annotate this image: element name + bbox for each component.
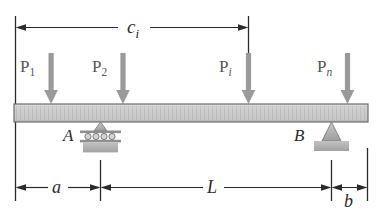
load-p1-arrow-head — [44, 90, 58, 104]
load-pi: Pi — [219, 53, 255, 104]
support-b-foundation-block — [314, 141, 349, 151]
support-a-triangle — [94, 122, 107, 131]
dimension-a-arrow-right — [90, 184, 101, 191]
support-a-roller — [109, 133, 115, 139]
load-p2: P2 — [92, 53, 130, 104]
support-a-top-plate — [80, 131, 121, 134]
support-b-triangle — [322, 122, 341, 141]
dimension-ci-arrow-left — [16, 24, 27, 31]
beam — [14, 104, 368, 122]
dimension-b: b — [332, 184, 368, 211]
dimension-b-arrow-left — [332, 184, 343, 191]
dimension-l-label: L — [206, 177, 217, 197]
support-a-rollers — [85, 133, 115, 139]
load-p2-label: P2 — [92, 57, 107, 78]
load-pi-arrow-shaft — [246, 53, 251, 94]
dimension-a-label: a — [52, 177, 61, 197]
load-pn-arrow-head — [341, 90, 355, 104]
dimension-l-arrow-left — [101, 184, 112, 191]
load-pn-arrow-shaft — [345, 53, 350, 94]
load-p1-arrow-shaft — [49, 53, 54, 94]
load-pi-label: Pi — [219, 57, 232, 78]
dimension-l: L — [101, 177, 332, 197]
diagram-canvas: ci P1 P2 Pi — [0, 0, 379, 216]
support-a-roller — [101, 133, 107, 139]
dimension-a: a — [16, 177, 101, 197]
load-p2-arrow-shaft — [120, 53, 125, 94]
support-a-label: A — [62, 126, 74, 145]
support-a-foundation-block — [83, 142, 118, 152]
dimension-b-arrow-right — [357, 184, 368, 191]
beam-hatch-overlay — [15, 106, 367, 120]
load-pn-label: Pn — [317, 57, 332, 78]
load-p2-arrow-head — [116, 90, 130, 104]
support-a-roller — [85, 133, 91, 139]
dimension-ci: ci — [16, 16, 249, 41]
load-p1: P1 — [20, 53, 58, 104]
dimension-l-arrow-right — [321, 184, 332, 191]
support-b: B — [294, 122, 349, 151]
dimension-ci-arrow-right — [238, 24, 249, 31]
support-a-bottom-plate — [80, 140, 121, 143]
load-p1-label: P1 — [20, 57, 35, 78]
support-b-label: B — [294, 126, 305, 145]
dimension-b-label: b — [344, 191, 353, 211]
support-a-roller — [93, 133, 99, 139]
dimension-ci-label: ci — [127, 16, 139, 41]
beam-diagram-figure: ci P1 P2 Pi — [0, 0, 379, 216]
dimension-a-arrow-left — [16, 184, 27, 191]
load-pn: Pn — [317, 53, 354, 104]
support-a: A — [62, 122, 121, 152]
load-pi-arrow-head — [242, 90, 256, 104]
